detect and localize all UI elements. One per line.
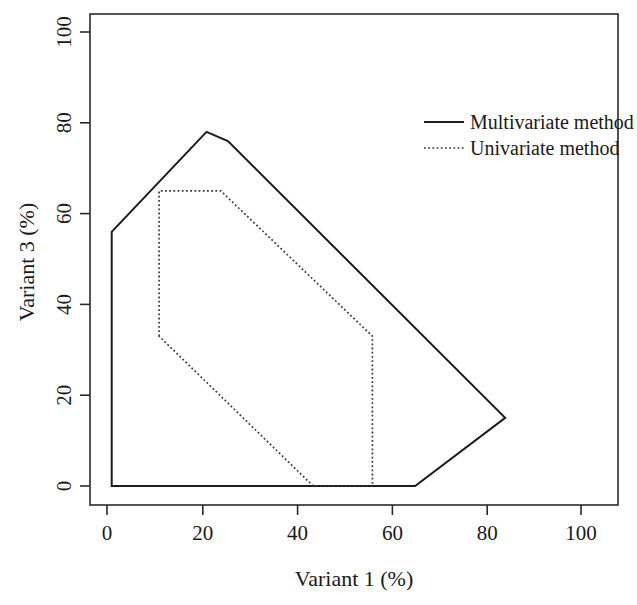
series-multivariate-method xyxy=(112,132,506,486)
chart-legend: Multivariate method Univariate method xyxy=(424,111,634,159)
y-axis-tick-labels: 0 20 40 60 80 100 xyxy=(52,16,76,491)
x-tick-label-60: 60 xyxy=(382,521,403,545)
y-axis-title: Variant 3 (%) xyxy=(14,203,39,322)
y-tick-label-100: 100 xyxy=(52,16,76,48)
legend-entry-multivariate: Multivariate method xyxy=(424,111,634,133)
y-axis-ticks xyxy=(80,32,90,486)
y-tick-label-40: 40 xyxy=(52,294,76,315)
plot-frame xyxy=(90,14,618,505)
x-axis-ticks xyxy=(107,505,581,515)
y-tick-label-60: 60 xyxy=(52,203,76,224)
y-tick-label-80: 80 xyxy=(52,112,76,133)
x-axis-title: Variant 1 (%) xyxy=(295,566,414,591)
legend-label-univariate: Univariate method xyxy=(470,137,619,159)
y-tick-label-20: 20 xyxy=(52,385,76,406)
x-axis-tick-labels: 0 20 40 60 80 100 xyxy=(102,521,597,545)
legend-label-multivariate: Multivariate method xyxy=(470,111,634,133)
x-tick-label-40: 40 xyxy=(287,521,308,545)
chart-canvas: 0 20 40 60 80 100 0 20 40 60 80 100 Vari… xyxy=(0,0,637,605)
chart-figure: 0 20 40 60 80 100 0 20 40 60 80 100 Vari… xyxy=(0,0,637,605)
x-tick-label-80: 80 xyxy=(477,521,498,545)
x-tick-label-0: 0 xyxy=(102,521,113,545)
series-univariate-method xyxy=(159,191,372,486)
x-tick-label-100: 100 xyxy=(565,521,597,545)
y-tick-label-0: 0 xyxy=(52,481,76,492)
legend-entry-univariate: Univariate method xyxy=(424,137,619,159)
x-tick-label-20: 20 xyxy=(192,521,213,545)
